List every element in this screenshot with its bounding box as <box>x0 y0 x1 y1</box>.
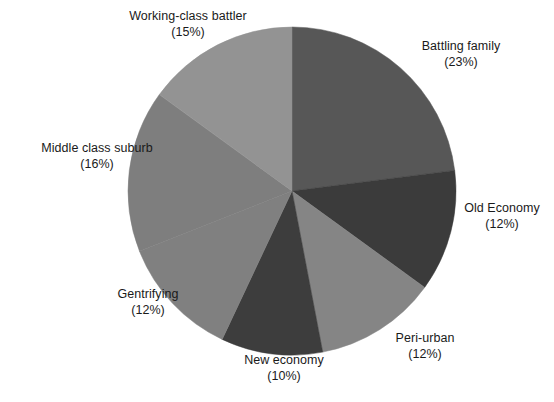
pie-label-name: Middle class suburb <box>8 140 186 156</box>
pie-label-percent: (12%) <box>452 216 552 232</box>
pie-label-name: Old Economy <box>452 200 552 216</box>
pie-label-new-economy: New economy (10%) <box>224 352 344 384</box>
pie-label-name: Peri-urban <box>370 330 480 346</box>
pie-label-old-economy: Old Economy (12%) <box>452 200 552 232</box>
pie-label-name: Working-class battler <box>88 8 288 24</box>
pie-label-percent: (15%) <box>88 24 288 40</box>
pie-label-percent: (23%) <box>396 54 526 70</box>
pie-label-percent: (10%) <box>224 368 344 384</box>
pie-label-name: Battling family <box>396 38 526 54</box>
pie-label-percent: (16%) <box>8 156 186 172</box>
pie-label-name: Gentrifying <box>88 286 208 302</box>
pie-label-working-class-battler: Working-class battler (15%) <box>88 8 288 40</box>
pie-label-name: New economy <box>224 352 344 368</box>
pie-label-battling-family: Battling family (23%) <box>396 38 526 70</box>
pie-label-percent: (12%) <box>88 302 208 318</box>
pie-label-gentrifying: Gentrifying (12%) <box>88 286 208 318</box>
pie-label-middle-class-suburb: Middle class suburb (16%) <box>8 140 186 172</box>
pie-label-peri-urban: Peri-urban (12%) <box>370 330 480 362</box>
pie-label-percent: (12%) <box>370 346 480 362</box>
pie-chart: Working-class battler (15%) Battling fam… <box>0 0 554 402</box>
